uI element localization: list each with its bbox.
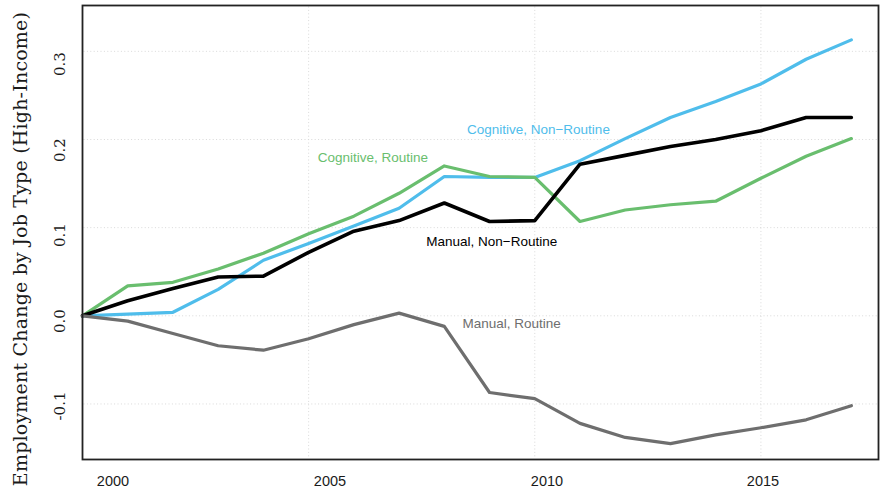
series-label-manual-routine: Manual, Routine <box>462 316 560 331</box>
chart-figure: Employment Change by Job Type (High-Inco… <box>0 0 883 498</box>
series-line-cognitive-routine <box>83 139 852 316</box>
series-label-cognitive-non-routine: Cognitive, Non−Routine <box>467 122 610 137</box>
grid-lines <box>83 7 878 459</box>
series-label-cognitive-routine: Cognitive, Routine <box>318 150 428 165</box>
plot-area <box>0 0 883 498</box>
series-line-manual-routine <box>83 313 852 443</box>
series-label-manual-non-routine: Manual, Non−Routine <box>426 234 557 249</box>
plot-frame <box>83 6 879 460</box>
series-line-manual-non-routine <box>83 117 852 315</box>
